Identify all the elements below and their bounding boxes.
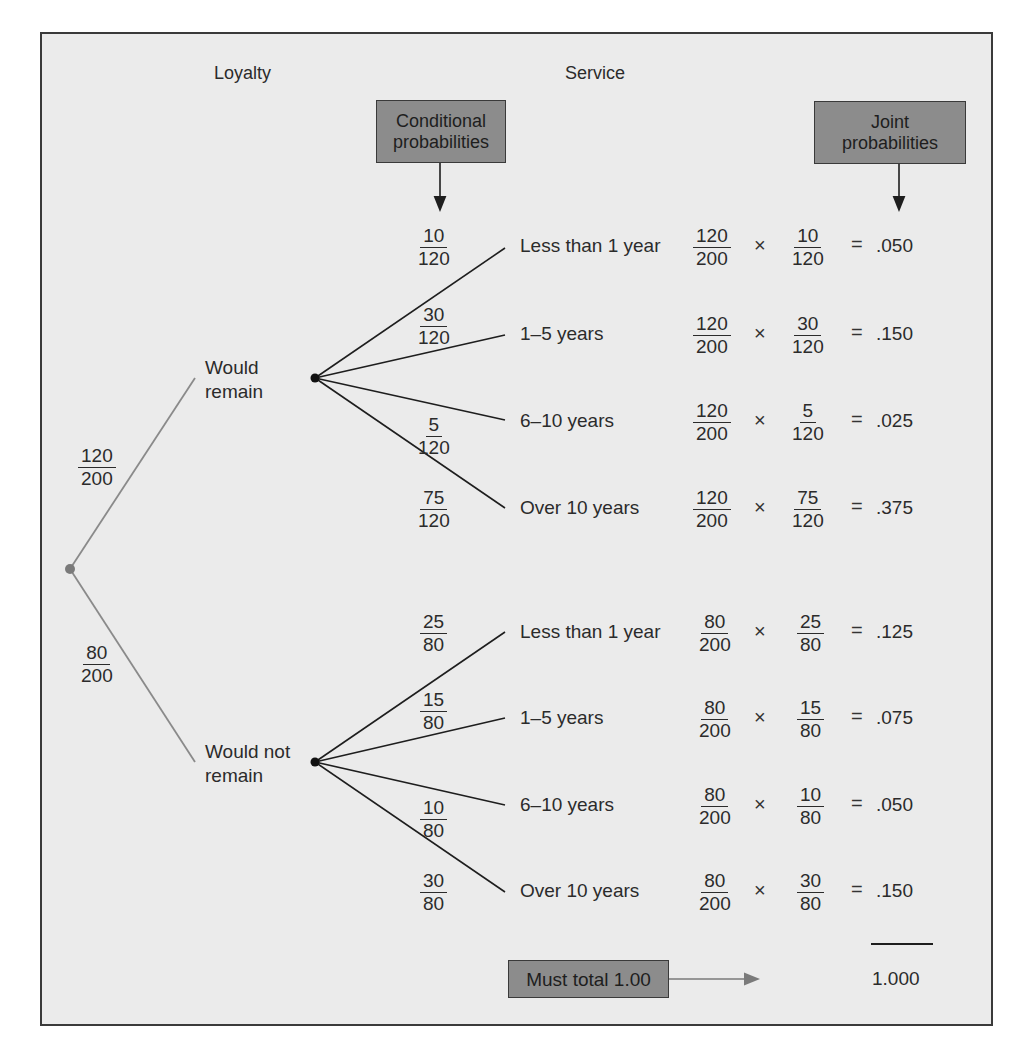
- service-label-not-remain-3: Over 10 years: [520, 880, 639, 902]
- joint-p2-remain-2: 5120: [789, 401, 827, 444]
- cond-prob-not-remain-2: 1080: [420, 798, 447, 841]
- joint-p1-remain-3: 120200: [693, 488, 731, 531]
- joint-value-remain-1: .150: [876, 323, 913, 345]
- joint-p2-remain-0: 10120: [789, 226, 827, 269]
- joint-p1-not-remain-3: 80200: [696, 871, 734, 914]
- service-header: Service: [565, 62, 625, 84]
- service-label-remain-3: Over 10 years: [520, 497, 639, 519]
- service-label-remain-2: 6–10 years: [520, 410, 614, 432]
- joint-p1-remain-0: 120200: [693, 226, 731, 269]
- joint-p2-not-remain-1: 1580: [797, 698, 824, 741]
- cond-prob-remain-2: 5120: [415, 415, 453, 458]
- cond-prob-not-remain-1: 1580: [420, 690, 447, 733]
- service-label-remain-0: Less than 1 year: [520, 235, 660, 257]
- joint-p1-remain-1: 120200: [693, 314, 731, 357]
- cond-prob-remain-0: 10120: [415, 226, 453, 269]
- must-total-callout: Must total 1.00: [508, 960, 669, 998]
- joint-value-not-remain-1: .075: [876, 707, 913, 729]
- node-would-not-remain: [311, 758, 320, 767]
- joint-value-remain-3: .375: [876, 497, 913, 519]
- cond-prob-remain-1: 30120: [415, 305, 453, 348]
- label-would-remain: Would remain: [205, 356, 263, 404]
- prob-would-not-remain: 80 200: [78, 643, 116, 686]
- joint-p2-not-remain-2: 1080: [797, 785, 824, 828]
- equals-symbol: =: [851, 233, 863, 255]
- joint-p2-remain-3: 75120: [789, 488, 827, 531]
- service-label-not-remain-1: 1–5 years: [520, 707, 603, 729]
- joint-p1-not-remain-0: 80200: [696, 612, 734, 655]
- root-node: [65, 564, 75, 574]
- cond-prob-remain-3: 75120: [415, 488, 453, 531]
- joint-p1-not-remain-2: 80200: [696, 785, 734, 828]
- joint-p2-not-remain-0: 2580: [797, 612, 824, 655]
- loyalty-header: Loyalty: [214, 62, 271, 84]
- joint-p2-remain-1: 30120: [789, 314, 827, 357]
- sum-rule: [871, 943, 933, 945]
- joint-value-remain-2: .025: [876, 410, 913, 432]
- joint-p2-not-remain-3: 3080: [797, 871, 824, 914]
- joint-value-not-remain-3: .150: [876, 880, 913, 902]
- cond-prob-not-remain-0: 2580: [420, 612, 447, 655]
- joint-value-not-remain-2: .050: [876, 794, 913, 816]
- joint-p1-remain-2: 120200: [693, 401, 731, 444]
- joint-value-not-remain-0: .125: [876, 621, 913, 643]
- service-label-remain-1: 1–5 years: [520, 323, 603, 345]
- service-label-not-remain-0: Less than 1 year: [520, 621, 660, 643]
- total-value: 1.000: [872, 968, 920, 990]
- prob-would-remain: 120 200: [78, 446, 116, 489]
- joint-value-remain-0: .050: [876, 235, 913, 257]
- label-would-not-remain: Would not remain: [205, 740, 290, 788]
- node-would-remain: [311, 374, 320, 383]
- cond-prob-not-remain-3: 3080: [420, 871, 447, 914]
- service-label-not-remain-2: 6–10 years: [520, 794, 614, 816]
- joint-probabilities-callout: Joint probabilities: [814, 101, 966, 164]
- conditional-probabilities-callout: Conditional probabilities: [376, 100, 506, 163]
- times-symbol: ×: [754, 234, 766, 256]
- joint-p1-not-remain-1: 80200: [696, 698, 734, 741]
